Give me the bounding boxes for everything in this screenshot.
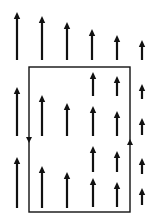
field-arrow-icon: [39, 16, 45, 60]
field-arrow-icon: [139, 188, 145, 205]
vector-field-diagram: [0, 0, 153, 219]
field-arrow-icon: [64, 103, 70, 136]
field-arrow-icon: [139, 158, 145, 174]
diagram-canvas: [0, 0, 153, 219]
field-arrow-icon: [114, 111, 120, 136]
field-arrow-icon: [89, 29, 95, 60]
loop-direction-down-icon: [26, 137, 32, 143]
field-arrow-icon: [64, 172, 70, 208]
field-arrow-icon: [114, 76, 120, 96]
loop-rectangle: [29, 67, 130, 212]
field-arrow-icon: [114, 182, 120, 207]
field-arrow-icon: [114, 151, 120, 172]
field-arrow-icon: [14, 12, 20, 60]
field-arrows: [14, 12, 145, 208]
field-arrow-icon: [39, 95, 45, 136]
field-arrow-icon: [114, 35, 120, 60]
field-arrow-icon: [139, 40, 145, 60]
field-arrow-icon: [39, 166, 45, 208]
field-arrow-icon: [139, 118, 145, 135]
field-arrow-icon: [90, 178, 96, 207]
field-arrow-icon: [64, 22, 70, 60]
field-arrow-icon: [90, 146, 96, 172]
field-arrow-icon: [139, 84, 145, 99]
field-arrow-icon: [90, 72, 96, 96]
field-arrow-icon: [14, 157, 20, 208]
loop-direction-up-icon: [127, 139, 133, 145]
field-arrow-icon: [90, 106, 96, 136]
field-arrow-icon: [14, 87, 20, 136]
